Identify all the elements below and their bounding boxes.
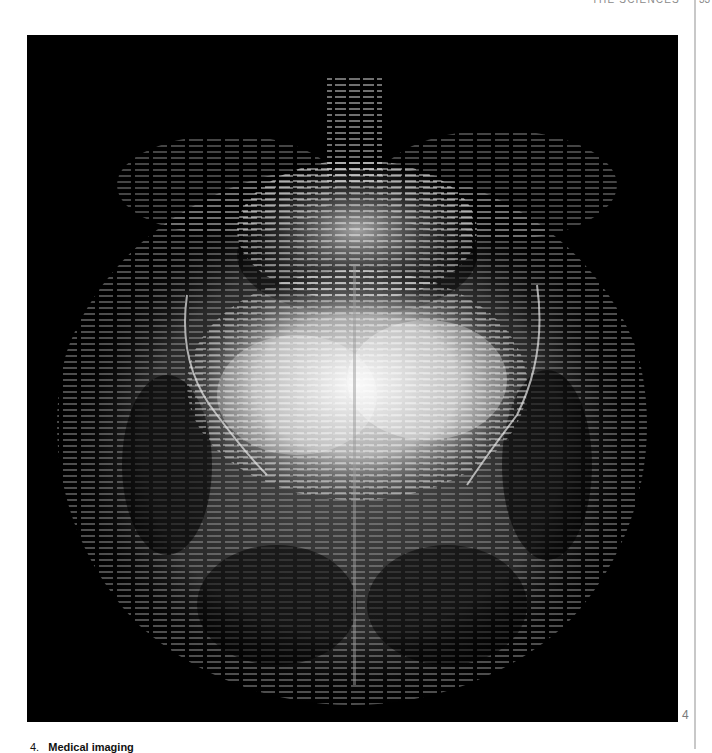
page-folio: 33 [699,0,710,5]
figure-number: 4 [682,708,689,722]
figure-image [27,35,678,722]
caption-title: Medical imaging [48,741,134,753]
running-header: THE SCIENCES [592,0,680,5]
margin-rule [694,0,696,749]
scan-rendering [27,35,678,722]
figure-caption: 4. Medical imaging [30,741,134,753]
caption-number: 4. [30,741,39,753]
